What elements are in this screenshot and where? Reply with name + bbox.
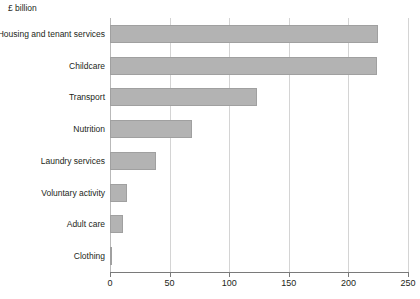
bar-row xyxy=(110,57,408,75)
x-tick-label-200: 200 xyxy=(341,278,356,289)
bar xyxy=(110,152,156,170)
category-label: Transport xyxy=(69,92,105,102)
bar xyxy=(110,57,377,75)
bar xyxy=(110,247,112,265)
x-tick-label-250: 250 xyxy=(400,278,415,289)
bar-chart: £ billion 050100150200250 Housing and te… xyxy=(0,0,420,299)
gridline-250 xyxy=(408,18,409,272)
category-label: Clothing xyxy=(74,251,105,261)
category-label: Laundry services xyxy=(41,156,105,166)
bar xyxy=(110,120,192,138)
category-label: Childcare xyxy=(69,61,105,71)
bar-row xyxy=(110,184,408,202)
bar xyxy=(110,184,127,202)
x-tick-label-150: 150 xyxy=(281,278,296,289)
tickmark-200 xyxy=(348,273,349,277)
tickmark-250 xyxy=(408,273,409,277)
bar-row xyxy=(110,88,408,106)
x-tick-label-0: 0 xyxy=(107,278,112,289)
tickmark-50 xyxy=(170,273,171,277)
bar-row xyxy=(110,215,408,233)
tickmark-100 xyxy=(229,273,230,277)
bar xyxy=(110,88,257,106)
bar xyxy=(110,215,123,233)
plot-area xyxy=(110,18,408,272)
category-label: Voluntary activity xyxy=(41,188,105,198)
x-tick-label-100: 100 xyxy=(222,278,237,289)
tickmark-0 xyxy=(110,273,111,277)
bar xyxy=(110,25,378,43)
bar-row xyxy=(110,120,408,138)
x-tick-label-50: 50 xyxy=(165,278,175,289)
category-label: Nutrition xyxy=(73,124,105,134)
chart-unit-caption: £ billion xyxy=(8,3,37,13)
category-label: Housing and tenant services xyxy=(0,29,105,39)
bar-row xyxy=(110,152,408,170)
tickmark-150 xyxy=(289,273,290,277)
bar-row xyxy=(110,25,408,43)
category-label: Adult care xyxy=(67,219,105,229)
x-axis-line xyxy=(110,272,409,273)
bar-row xyxy=(110,247,408,265)
